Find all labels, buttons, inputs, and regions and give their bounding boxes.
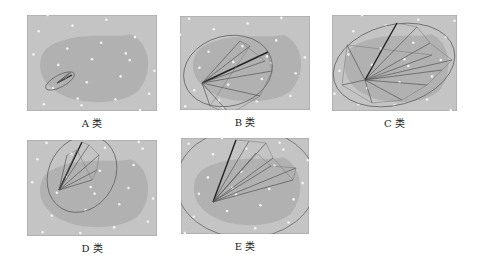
map-image bbox=[27, 15, 157, 111]
panel-label: C 类 bbox=[332, 115, 457, 130]
map-image bbox=[181, 138, 309, 234]
map-image bbox=[180, 16, 310, 110]
map-image bbox=[27, 140, 157, 236]
panel-label: E 类 bbox=[181, 238, 309, 253]
panel-b: B 类 bbox=[180, 16, 310, 126]
map-image bbox=[332, 15, 457, 111]
panel-label: D 类 bbox=[27, 240, 157, 255]
panel-e: E 类 bbox=[181, 138, 309, 250]
panel-c: C 类 bbox=[332, 15, 457, 127]
panel-a: A 类 bbox=[27, 15, 157, 127]
panel-label: B 类 bbox=[180, 114, 310, 129]
panel-label: A 类 bbox=[27, 115, 157, 130]
panel-d: D 类 bbox=[27, 140, 157, 252]
